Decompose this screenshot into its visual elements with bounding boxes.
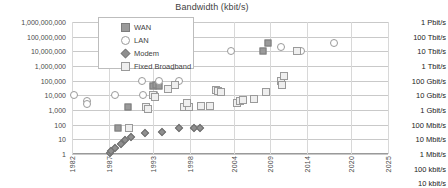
legend-marker-lan-icon xyxy=(121,36,130,45)
data-point-broadband xyxy=(151,93,159,101)
y-axis-tick-label: 1,000,000,000 xyxy=(21,19,66,26)
legend-label: WAN xyxy=(134,23,151,32)
data-point-broadband xyxy=(217,88,225,96)
legend-label: Fixed Broadband xyxy=(134,62,191,71)
data-point-lan xyxy=(155,77,163,85)
data-point-modem xyxy=(157,127,165,135)
y-axis-tick-label: 100 xyxy=(54,121,66,128)
x-axis-tick-label: 2025 xyxy=(385,156,392,172)
secondary-y-axis-labels: 1 Pbit/s100 Tbit/s10 Tbit/s1 Tbit/s100 G… xyxy=(392,22,448,154)
data-point-lan xyxy=(70,91,78,99)
x-axis-tick-label: 1998 xyxy=(186,156,193,172)
data-point-broadband xyxy=(280,72,288,80)
data-point-lan xyxy=(111,91,119,99)
legend-label: LAN xyxy=(134,36,149,45)
secondary-y-axis-tick-label: 100 kbit/s xyxy=(414,164,446,173)
data-point-lan xyxy=(139,91,147,99)
data-point-broadband xyxy=(278,81,286,89)
data-point-wan xyxy=(260,48,267,55)
x-axis-tick-label: 1987 xyxy=(105,156,112,172)
data-point-lan xyxy=(83,100,91,108)
grid-line-vertical xyxy=(307,22,308,154)
data-point-broadband xyxy=(171,81,179,89)
x-axis-tick-label: 2014 xyxy=(304,156,311,172)
secondary-y-axis-tick-label: 10 Mbit/s xyxy=(416,135,446,144)
legend-item-broadband[interactable]: Fixed Broadband xyxy=(121,60,193,72)
data-point-lan xyxy=(330,39,338,47)
secondary-y-axis-tick-label: 1 Tbit/s xyxy=(422,62,446,71)
data-point-broadband xyxy=(250,95,258,103)
data-point-wan xyxy=(265,39,272,46)
secondary-y-axis-tick-label: 1 Mbit/s xyxy=(420,150,446,159)
bandwidth-chart: Bandwidth (kbit/s) kbit/s 1,000,000,0001… xyxy=(0,0,448,188)
y-axis-tick-label: 100,000,000 xyxy=(27,33,66,40)
grid-line-vertical xyxy=(351,22,352,154)
x-axis-tick-labels: 198219871993199820042009201420202025 xyxy=(72,156,388,188)
data-point-lan xyxy=(227,47,235,55)
data-point-lan xyxy=(138,77,146,85)
x-axis-tick-label: 1993 xyxy=(149,156,156,172)
data-point-wan xyxy=(124,104,131,111)
y-axis-tick-label: 100,000 xyxy=(41,77,66,84)
grid-line-horizontal xyxy=(72,81,388,82)
y-axis-tick-label: 1 xyxy=(62,151,66,158)
data-point-broadband xyxy=(183,99,191,107)
data-point-wan xyxy=(114,125,121,132)
legend-item-modem[interactable]: Modem xyxy=(121,47,193,59)
secondary-y-axis-tick-label: 10 kbit/s xyxy=(418,179,446,188)
secondary-y-axis-tick-label: 10 Tbit/s xyxy=(417,47,446,56)
grid-line-horizontal xyxy=(72,110,388,111)
legend-item-lan[interactable]: LAN xyxy=(121,34,193,46)
data-point-broadband xyxy=(262,88,270,96)
grid-line-horizontal xyxy=(72,154,388,155)
chart-title: Bandwidth (kbit/s) xyxy=(0,2,448,12)
grid-line-horizontal xyxy=(72,95,388,96)
y-axis-tick-label: 1,000 xyxy=(48,107,66,114)
secondary-y-axis-tick-label: 1 Gbit/s xyxy=(420,106,446,115)
grid-line-vertical xyxy=(388,22,389,154)
y-axis-tick-label: 1,000,000 xyxy=(35,63,66,70)
y-axis-tick-label: 10,000 xyxy=(45,92,66,99)
data-point-modem xyxy=(141,128,149,136)
x-axis-tick-label: 2020 xyxy=(348,156,355,172)
secondary-y-axis-tick-label: 100 Gbit/s xyxy=(412,76,446,85)
grid-line-vertical xyxy=(72,22,73,154)
x-axis-tick-label: 2004 xyxy=(230,156,237,172)
legend-marker-broadband-icon xyxy=(121,62,130,71)
secondary-y-axis-tick-label: 1 Pbit/s xyxy=(421,18,446,27)
legend-item-wan[interactable]: WAN xyxy=(121,21,193,33)
chart-title-text: Bandwidth (kbit/s) xyxy=(175,2,248,12)
x-axis-tick-label: 2009 xyxy=(267,156,274,172)
data-point-broadband xyxy=(144,105,152,113)
y-axis-tick-label: 10,000,000 xyxy=(31,48,66,55)
secondary-y-axis-tick-label: 10 Gbit/s xyxy=(416,91,446,100)
legend-marker-modem-icon xyxy=(121,48,131,58)
data-point-broadband xyxy=(197,102,205,110)
legend-label: Modem xyxy=(134,49,159,58)
secondary-y-axis-tick-label: 100 Mbit/s xyxy=(411,120,446,129)
legend-marker-wan-icon xyxy=(121,23,130,32)
y-axis-tick-label: 10 xyxy=(58,136,66,143)
data-point-broadband xyxy=(239,96,247,104)
data-point-broadband xyxy=(125,124,133,132)
secondary-y-axis-tick-label: 100 Tbit/s xyxy=(413,32,446,41)
data-point-broadband xyxy=(206,102,214,110)
data-point-broadband xyxy=(293,47,301,55)
y-axis-tick-labels: 1,000,000,000100,000,00010,000,0001,000,… xyxy=(0,22,70,154)
grid-line-vertical xyxy=(234,22,235,154)
data-point-lan xyxy=(277,43,285,51)
x-axis-tick-label: 1982 xyxy=(69,156,76,172)
chart-legend: WANLANModemFixed Broadband xyxy=(98,17,194,69)
